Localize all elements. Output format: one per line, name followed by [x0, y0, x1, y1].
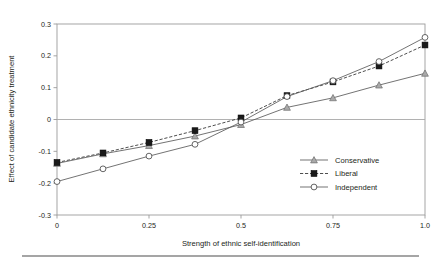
marker-liberal — [100, 150, 106, 156]
chart-legend: ConservativeLiberalIndependent — [300, 156, 379, 192]
marker-independent — [192, 141, 198, 147]
marker-independent — [330, 78, 336, 84]
marker-independent — [100, 166, 106, 172]
series-line-liberal — [57, 45, 425, 162]
marker-independent — [422, 34, 428, 40]
y-axis-ticks — [54, 24, 58, 215]
chart-svg: 0.30.20.10-0.1-0.2-0.3 00.250.50.751.0 S… — [0, 0, 432, 263]
marker-liberal — [54, 160, 60, 166]
legend-label-conservative: Conservative — [335, 156, 379, 165]
y-tick-label: -0.2 — [39, 179, 51, 188]
marker-conservative — [422, 70, 429, 76]
y-tick-label: 0 — [47, 115, 51, 124]
legend-marker-liberal — [311, 171, 317, 177]
chart-figure: 0.30.20.10-0.1-0.2-0.3 00.250.50.751.0 S… — [0, 0, 432, 263]
x-axis-title: Strength of ethnic self-identification — [182, 239, 300, 248]
y-tick-label: -0.1 — [39, 147, 51, 156]
x-tick-label: 0.25 — [142, 221, 156, 230]
marker-independent — [54, 179, 60, 185]
y-axis-tick-labels: 0.30.20.10-0.1-0.2-0.3 — [39, 20, 51, 220]
marker-independent — [284, 94, 290, 100]
marker-independent — [376, 59, 382, 65]
marker-liberal — [146, 140, 152, 146]
legend-label-independent: Independent — [335, 183, 378, 192]
x-tick-label: 0.75 — [326, 221, 340, 230]
y-tick-label: 0.3 — [41, 20, 51, 29]
x-axis-ticks — [57, 215, 425, 219]
x-axis-tick-labels: 00.250.50.751.0 — [55, 221, 430, 230]
x-tick-label: 0.5 — [236, 221, 246, 230]
y-axis-title: Effect of candidate ethnicity treatment — [7, 55, 16, 183]
marker-liberal — [422, 42, 428, 48]
marker-independent — [146, 153, 152, 159]
y-tick-label: 0.2 — [41, 51, 51, 60]
marker-independent — [238, 119, 244, 125]
y-tick-label: 0.1 — [41, 83, 51, 92]
legend-label-liberal: Liberal — [335, 169, 358, 178]
y-tick-label: -0.3 — [39, 211, 51, 220]
x-tick-label: 0 — [55, 221, 59, 230]
legend-marker-independent — [311, 184, 317, 190]
marker-liberal — [192, 128, 198, 134]
x-tick-label: 1.0 — [420, 221, 430, 230]
